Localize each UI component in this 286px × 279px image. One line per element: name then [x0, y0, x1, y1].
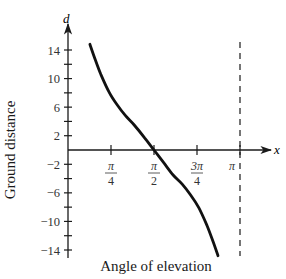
x-tick-label: π: [229, 159, 236, 173]
chart: 141062−2−6−10−14π4π23π4π d x: [0, 0, 286, 279]
y-tick-label: −6: [47, 186, 60, 200]
x-tick-label-denominator: 4: [194, 174, 200, 188]
y-axis-symbol: d: [63, 11, 70, 26]
x-axis-symbol: x: [273, 142, 280, 157]
y-tick-label: 14: [48, 44, 61, 58]
x-tick-label-numerator: 3π: [190, 159, 204, 173]
x-tick-label-numerator: π: [151, 159, 158, 173]
x-axis-label: Angle of elevation: [0, 258, 286, 275]
y-axis-label: Ground distance: [2, 101, 19, 200]
y-tick-label: 10: [48, 72, 61, 86]
y-tick-label: −14: [40, 244, 60, 258]
y-tick-label: 6: [54, 101, 60, 115]
y-tick-label: 2: [54, 129, 60, 143]
y-tick-label: −2: [47, 158, 60, 172]
x-tick-label-denominator: 2: [151, 174, 157, 188]
x-tick-label-denominator: 4: [108, 174, 114, 188]
x-tick-label-numerator: π: [108, 159, 115, 173]
y-tick-label: −10: [40, 215, 60, 229]
